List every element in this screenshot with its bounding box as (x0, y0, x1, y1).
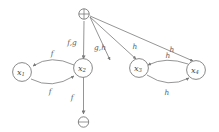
node-x4[interactable]: x4 (187, 61, 206, 80)
edge-x4-to-x3 (148, 60, 188, 65)
diagram-canvas: x1 x2 x3 x4 f,g g,h h h f f h h f (0, 0, 219, 132)
edge-source-to-x3 (90, 17, 136, 59)
edge-label-x4-to-x3: h (166, 51, 171, 60)
edge-label-x1-to-x2: f (48, 87, 53, 96)
edge-source-to-x4 (90, 16, 193, 61)
edge-source-to-x2 (84, 21, 85, 59)
node-x3[interactable]: x3 (130, 59, 149, 78)
edge-label-x3-to-x4: h (165, 88, 170, 97)
node-x2[interactable]: x2 (74, 59, 93, 78)
node-source[interactable] (79, 9, 89, 19)
edge-label-source-to-x2-diagonal: g,h (94, 43, 106, 52)
node-sink[interactable] (78, 117, 88, 127)
edge-label-x2-to-x1: f (50, 49, 55, 58)
node-x1[interactable]: x1 (13, 63, 32, 82)
edge-label-x2-to-sink: f (70, 93, 75, 102)
edge-x3-to-x4 (147, 75, 189, 83)
edge-x1-to-x2 (31, 76, 74, 84)
edge-x2-to-x1 (33, 60, 74, 66)
edge-label-source-to-x2: f,g (66, 38, 77, 47)
edge-label-source-to-x3: h (133, 42, 138, 51)
graph-svg: x1 x2 x3 x4 f,g g,h h h f f h h f (0, 0, 219, 132)
